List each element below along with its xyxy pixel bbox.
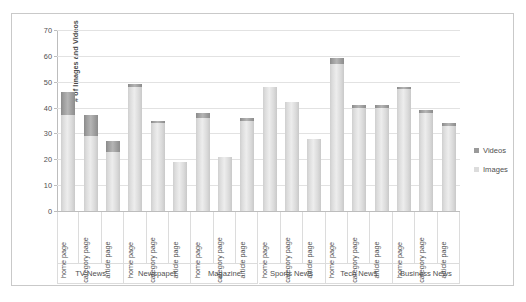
bar-segment-images[interactable] xyxy=(106,152,120,211)
x-tick-cell: article page xyxy=(102,212,124,264)
legend-item-images[interactable]: Images xyxy=(474,165,524,174)
y-tick-label-10: 10 xyxy=(44,181,52,190)
x-tick-cell: home page xyxy=(326,212,348,264)
bar-segment-images[interactable] xyxy=(61,115,75,211)
bar-segment-videos[interactable] xyxy=(84,115,98,136)
x-tick-cell: home page xyxy=(57,212,79,264)
chart-legend: VideosImages xyxy=(474,146,524,184)
bar-segment-images[interactable] xyxy=(375,108,389,211)
bar-segment-images[interactable] xyxy=(84,136,98,211)
x-tick-cell: article page xyxy=(303,212,325,264)
y-tick-mark-10 xyxy=(54,185,57,186)
legend-swatch-icon xyxy=(474,148,479,153)
bar-stack[interactable] xyxy=(84,115,98,211)
x-tick-cell: category page xyxy=(147,212,169,264)
bar-segment-images[interactable] xyxy=(263,87,277,211)
bar-stack[interactable] xyxy=(196,113,210,211)
bar-stack[interactable] xyxy=(307,139,321,211)
legend-item-videos[interactable]: Videos xyxy=(474,146,524,155)
bar-segment-images[interactable] xyxy=(285,102,299,211)
bar-segment-images[interactable] xyxy=(442,126,456,211)
bar-stack[interactable] xyxy=(375,105,389,211)
y-tick-mark-30 xyxy=(54,133,57,134)
y-tick-mark-60 xyxy=(54,56,57,57)
bar-segment-images[interactable] xyxy=(352,108,366,211)
x-tick-cell: home page xyxy=(259,212,281,264)
x-group-label: Magazine xyxy=(191,264,258,284)
y-tick-mark-40 xyxy=(54,108,57,109)
x-tick-cell: article page xyxy=(169,212,191,264)
bar-segment-images[interactable] xyxy=(218,157,232,211)
bar-stack[interactable] xyxy=(106,141,120,211)
bar-segment-images[interactable] xyxy=(173,162,187,211)
x-tick-cell: category page xyxy=(348,212,370,264)
bar-stack[interactable] xyxy=(263,87,277,211)
bar-segment-images[interactable] xyxy=(196,118,210,211)
x-tick-cell: category page xyxy=(79,212,101,264)
y-tick-label-0: 0 xyxy=(48,207,52,216)
bar-stack[interactable] xyxy=(218,157,232,211)
y-tick-label-30: 30 xyxy=(44,129,52,138)
bar-segment-images[interactable] xyxy=(307,139,321,211)
y-tick-label-70: 70 xyxy=(44,26,52,35)
bar-stack[interactable] xyxy=(352,105,366,211)
x-group-label: Business News xyxy=(393,264,460,284)
y-tick-mark-20 xyxy=(54,159,57,160)
legend-label: Images xyxy=(483,165,508,174)
x-group-label: Newspaper xyxy=(124,264,191,284)
x-group-label: TV News xyxy=(57,264,124,284)
legend-label: Videos xyxy=(483,146,506,155)
bar-stack[interactable] xyxy=(419,110,433,211)
gridline-70 xyxy=(57,30,460,31)
bar-stack[interactable] xyxy=(173,162,187,211)
bar-segment-images[interactable] xyxy=(419,113,433,211)
x-group-label: Tech News xyxy=(326,264,393,284)
x-tick-cell: category page xyxy=(214,212,236,264)
x-tick-cell: home page xyxy=(124,212,146,264)
legend-swatch-icon xyxy=(474,167,479,172)
y-tick-label-20: 20 xyxy=(44,155,52,164)
bar-segment-images[interactable] xyxy=(151,123,165,211)
y-tick-mark-50 xyxy=(54,82,57,83)
x-tick-cell: article page xyxy=(236,212,258,264)
y-tick-label-40: 40 xyxy=(44,103,52,112)
x-tick-cell: category page xyxy=(281,212,303,264)
x-tick-cell: article page xyxy=(438,212,460,264)
bar-stack[interactable] xyxy=(330,58,344,211)
x-tick-cell: home page xyxy=(191,212,213,264)
chart-frame: # of Images and Videos 010203040506070 h… xyxy=(11,13,514,286)
bar-stack[interactable] xyxy=(151,121,165,211)
y-tick-label-60: 60 xyxy=(44,51,52,60)
plot-area: 010203040506070 xyxy=(57,30,460,212)
bar-stack[interactable] xyxy=(240,118,254,211)
bar-segment-images[interactable] xyxy=(240,121,254,212)
x-tick-cell: category page xyxy=(415,212,437,264)
bar-stack[interactable] xyxy=(442,123,456,211)
gridline-50 xyxy=(57,82,460,83)
x-group-label: Sports News xyxy=(259,264,326,284)
y-tick-label-50: 50 xyxy=(44,77,52,86)
x-tick-cell: article page xyxy=(370,212,392,264)
y-tick-mark-70 xyxy=(54,30,57,31)
bar-segment-videos[interactable] xyxy=(106,141,120,151)
category-axis-band: home pagecategory pagearticle pagehome p… xyxy=(57,212,460,284)
bar-stack[interactable] xyxy=(61,92,75,211)
bar-stack[interactable] xyxy=(285,102,299,211)
bar-segment-images[interactable] xyxy=(128,87,142,211)
x-tick-cell: home page xyxy=(393,212,415,264)
bar-segment-images[interactable] xyxy=(330,64,344,211)
gridline-60 xyxy=(57,56,460,57)
bar-stack[interactable] xyxy=(397,87,411,211)
bar-segment-images[interactable] xyxy=(397,89,411,211)
bar-stack[interactable] xyxy=(128,84,142,211)
bar-segment-videos[interactable] xyxy=(61,92,75,115)
